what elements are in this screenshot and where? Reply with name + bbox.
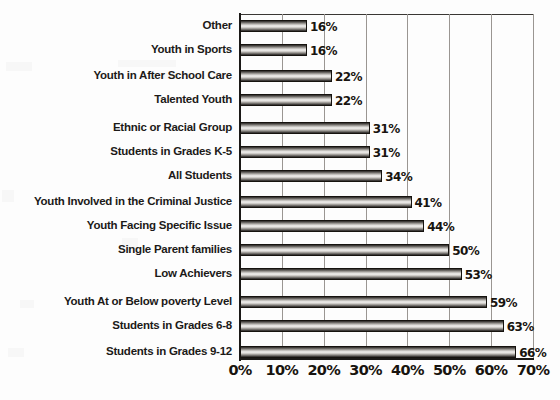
bar xyxy=(240,122,370,134)
bar xyxy=(240,220,424,232)
category-label: Students in Grades K-5 xyxy=(0,145,232,157)
bar xyxy=(240,94,332,106)
bar-value-label: 22% xyxy=(335,71,362,83)
bar-value-label: 31% xyxy=(373,123,400,135)
gridline-10% xyxy=(282,14,283,360)
bar-value-label: 31% xyxy=(373,147,400,159)
bar xyxy=(240,70,332,82)
category-label: Youth in After School Care xyxy=(0,69,232,81)
bar-value-label: 16% xyxy=(310,45,337,57)
category-label: Other xyxy=(0,19,232,31)
bar-value-label: 41% xyxy=(415,197,442,209)
bar xyxy=(240,20,307,32)
bar-value-label: 16% xyxy=(310,21,337,33)
bar xyxy=(240,196,412,208)
category-label: Students in Grades 9-12 xyxy=(0,345,232,357)
x-tick-label: 0% xyxy=(228,362,251,378)
bar xyxy=(240,170,382,182)
bar xyxy=(240,244,449,256)
category-label: Youth At or Below poverty Level xyxy=(0,295,232,307)
category-label: All Students xyxy=(0,169,232,181)
y-axis-line xyxy=(239,13,241,361)
x-tick-label: 50% xyxy=(433,362,466,378)
x-tick-label: 30% xyxy=(349,362,382,378)
gridline-40% xyxy=(407,14,408,360)
x-tick-label: 10% xyxy=(266,362,299,378)
bar xyxy=(240,268,462,280)
category-axis-labels: OtherYouth in SportsYouth in After Schoo… xyxy=(0,14,232,360)
gridline-20% xyxy=(324,14,325,360)
x-tick-label: 20% xyxy=(307,362,340,378)
bar xyxy=(240,320,504,332)
x-tick-label: 60% xyxy=(475,362,508,378)
bar-value-label: 59% xyxy=(490,297,517,309)
category-label: Youth Involved in the Criminal Justice xyxy=(0,195,232,207)
bar-chart: OtherYouth in SportsYouth in After Schoo… xyxy=(0,0,560,400)
x-tick-label: 70% xyxy=(517,362,550,378)
x-axis-line xyxy=(239,358,534,360)
chart-title-clipped xyxy=(0,0,560,8)
category-label: Youth in Sports xyxy=(0,43,232,55)
x-tick-label: 40% xyxy=(391,362,424,378)
bar-value-label: 53% xyxy=(465,269,492,281)
category-label: Talented Youth xyxy=(0,93,232,105)
category-label: Youth Facing Specific Issue xyxy=(0,219,232,231)
bar xyxy=(240,44,307,56)
plot-area: 16%16%22%22%31%31%34%41%44%50%53%59%63%6… xyxy=(240,14,533,360)
bar xyxy=(240,296,487,308)
bar-value-label: 22% xyxy=(335,95,362,107)
bar-value-label: 50% xyxy=(452,245,479,257)
gridline-50% xyxy=(449,14,450,360)
value-axis-labels: 0%10%20%30%40%50%60%70% xyxy=(240,362,540,384)
bar xyxy=(240,146,370,158)
category-label: Students in Grades 6-8 xyxy=(0,319,232,331)
category-label: Single Parent families xyxy=(0,243,232,255)
category-label: Ethnic or Racial Group xyxy=(0,121,232,133)
bar-value-label: 34% xyxy=(385,171,412,183)
category-label: Low Achievers xyxy=(0,267,232,279)
gridline-70% xyxy=(533,14,534,360)
bar xyxy=(240,346,516,358)
bar-value-label: 44% xyxy=(427,221,454,233)
plot-top-border xyxy=(240,14,533,15)
bar-value-label: 63% xyxy=(507,321,534,333)
gridline-30% xyxy=(366,14,367,360)
